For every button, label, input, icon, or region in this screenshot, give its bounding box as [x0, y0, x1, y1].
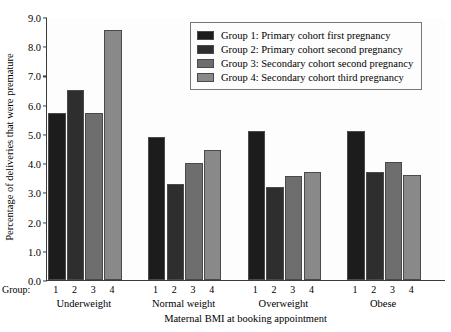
x-axis-group-number: 3	[91, 284, 96, 295]
y-axis-tick-mark	[43, 193, 47, 194]
bar	[266, 187, 284, 281]
legend-label: Group 2: Primary cohort second pregnancy	[221, 44, 403, 55]
x-axis-category-label: Normal weight	[152, 298, 215, 309]
y-axis-tick-mark	[43, 134, 47, 135]
x-axis-title: Maternal BMI at booking appointment	[46, 313, 445, 324]
y-axis-tick-mark	[43, 164, 47, 165]
bar	[204, 150, 222, 280]
legend-item: Group 4: Secondary cohort third pregnanc…	[197, 70, 413, 84]
legend-item: Group 1: Primary cohort first pregnancy	[197, 28, 413, 42]
bar	[67, 90, 85, 280]
legend-label: Group 3: Secondary cohort second pregnan…	[221, 58, 413, 69]
x-axis-group-number: 2	[172, 284, 177, 295]
bar	[403, 175, 421, 280]
bar	[185, 163, 203, 280]
bar	[248, 131, 266, 280]
y-axis-title: Percentage of deliveries that were prema…	[2, 2, 18, 292]
x-axis-category-label: Obese	[370, 298, 396, 309]
legend-swatch-icon	[197, 73, 214, 82]
x-axis-group-number: 4	[209, 284, 214, 295]
legend-swatch-icon	[197, 45, 214, 54]
x-axis-group-number: 2	[371, 284, 376, 295]
legend-label: Group 1: Primary cohort first pregnancy	[221, 30, 390, 41]
x-axis-group-number: 1	[153, 284, 158, 295]
x-axis-category-label: Overweight	[259, 298, 309, 309]
bar	[366, 172, 384, 280]
x-axis-group-number: 1	[253, 284, 258, 295]
x-axis-category-label: Underweight	[56, 298, 111, 309]
x-axis-group-number: 4	[109, 284, 114, 295]
x-axis-group-number: 2	[272, 284, 277, 295]
bar	[385, 162, 403, 280]
x-axis-group-number: 3	[190, 284, 195, 295]
legend-swatch-icon	[197, 59, 214, 68]
legend-item: Group 3: Secondary cohort second pregnan…	[197, 56, 413, 70]
y-axis-tick-mark	[43, 222, 47, 223]
legend-label: Group 4: Secondary cohort third pregnanc…	[221, 72, 404, 83]
bar	[104, 30, 122, 280]
bar	[148, 137, 166, 280]
bar	[167, 184, 185, 280]
x-axis-group-number: 4	[409, 284, 414, 295]
y-axis-tick-mark	[43, 251, 47, 252]
x-axis-group-number: 4	[309, 284, 314, 295]
bar	[48, 113, 66, 280]
y-axis-tick-mark	[43, 76, 47, 77]
x-axis-group-number: 1	[53, 284, 58, 295]
x-axis-group-number: 3	[290, 284, 295, 295]
y-axis-tick-mark	[43, 105, 47, 106]
x-axis-group-number: 3	[390, 284, 395, 295]
premature-delivery-bar-chart: Percentage of deliveries that were prema…	[0, 0, 451, 332]
bar	[347, 131, 365, 280]
x-axis-group-number: 1	[353, 284, 358, 295]
y-axis-tick-mark	[43, 17, 47, 18]
bar	[85, 113, 103, 280]
chart-legend: Group 1: Primary cohort first pregnancyG…	[190, 22, 422, 90]
bar	[304, 172, 322, 280]
group-axis-label: Group:	[2, 284, 30, 295]
legend-item: Group 2: Primary cohort second pregnancy	[197, 42, 413, 56]
x-axis-group-number: 2	[72, 284, 77, 295]
y-axis-tick-mark	[43, 47, 47, 48]
y-axis-tick-mark	[43, 280, 47, 281]
bar	[285, 176, 303, 280]
legend-swatch-icon	[197, 31, 214, 40]
